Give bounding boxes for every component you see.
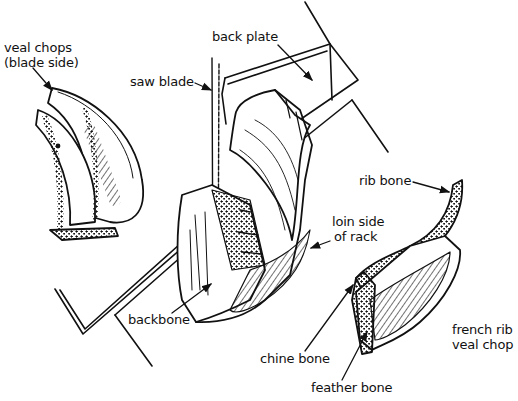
label-veal-chops-line2: (blade side) <box>4 55 79 70</box>
label-chine-bone: chine bone <box>260 351 330 366</box>
label-back-plate: back plate <box>212 29 278 44</box>
veal-rack-diagram: veal chops (blade side) saw blade back p… <box>0 0 518 401</box>
label-french-rib-line1: french rib <box>452 322 513 337</box>
label-loin-side-line2: of rack <box>332 229 384 244</box>
label-feather-bone: feather bone <box>311 380 392 395</box>
label-french-rib-line2: veal chop <box>452 337 513 352</box>
label-backbone: backbone <box>128 312 190 327</box>
veal-chops-blade-side <box>36 88 143 240</box>
label-veal-chops-line1: veal chops <box>4 40 79 55</box>
label-loin-side: loin side of rack <box>332 214 384 244</box>
label-rib-bone: rib bone <box>359 173 411 188</box>
saw-base-frame <box>55 244 182 366</box>
french-rib-veal-chop <box>352 180 462 354</box>
label-french-rib-veal-chop: french rib veal chop <box>452 322 513 352</box>
veal-rack <box>178 90 313 322</box>
label-loin-side-line1: loin side <box>332 214 384 229</box>
label-saw-blade: saw blade <box>130 74 194 89</box>
label-veal-chops: veal chops (blade side) <box>4 40 79 70</box>
